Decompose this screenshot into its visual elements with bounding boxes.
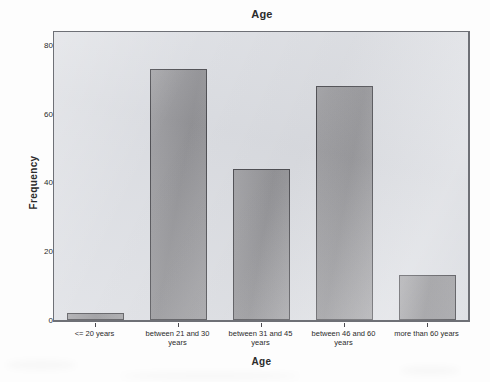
- bar-4: [316, 86, 372, 320]
- bar-5: [399, 275, 455, 320]
- y-tick-label-40: 40: [27, 178, 53, 187]
- x-tick-label-3: between 31 and 45 years: [219, 329, 302, 347]
- scan-artifact: [120, 372, 300, 380]
- x-tick-mark-2: [178, 323, 179, 327]
- x-tick-label-2: between 21 and 30 years: [136, 329, 219, 347]
- y-axis: Frequency 020406080: [20, 31, 53, 322]
- bar-3: [233, 169, 289, 320]
- y-tick-label-0: 0: [27, 316, 53, 325]
- x-tick-mark-5: [427, 323, 428, 327]
- x-axis-title: Age: [53, 356, 470, 367]
- y-tick-label-80: 80: [27, 40, 53, 49]
- y-tick-label-60: 60: [27, 109, 53, 118]
- x-tick-label-1: <= 20 years: [53, 329, 136, 338]
- x-tick-label-4: between 46 and 60 years: [302, 329, 385, 347]
- x-tick-label-5: more than 60 years: [385, 329, 468, 338]
- x-tick-mark-1: [95, 323, 96, 327]
- plot-area: [53, 31, 470, 322]
- bar-2: [150, 69, 206, 320]
- chart-title: Age: [53, 8, 471, 20]
- x-tick-mark-3: [261, 323, 262, 327]
- scan-artifact: [400, 366, 460, 375]
- x-axis: <= 20 yearsbetween 21 and 30 yearsbetwee…: [53, 323, 470, 355]
- x-tick-mark-4: [344, 323, 345, 327]
- bar-1: [67, 313, 123, 320]
- plot-inner: [54, 32, 468, 320]
- chart-figure: Age Frequency 020406080 <= 20 yearsbetwe…: [0, 0, 490, 382]
- y-tick-label-20: 20: [27, 247, 53, 256]
